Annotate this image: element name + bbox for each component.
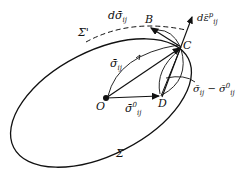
label-B: B	[145, 14, 153, 25]
label-sigma0: σ̄0ij	[125, 102, 141, 117]
label-D: D	[158, 98, 167, 109]
label-diff: σ̄ij − σ̄0ij	[193, 83, 235, 97]
vector-CB	[151, 28, 181, 47]
vector-OD	[106, 96, 159, 98]
label-sigma-prime: Σ'	[78, 27, 89, 38]
label-d-sigma: dσ̄ij	[108, 10, 127, 24]
label-sigma-surface: Σ	[116, 148, 124, 159]
label-O: O	[96, 101, 105, 112]
arc-CD-left	[159, 50, 179, 94]
yield-surface-sigma	[0, 12, 212, 174]
label-d-eps: dε̄pij	[197, 12, 218, 26]
label-C: C	[183, 40, 191, 51]
label-sigma-bar: σ̄ij	[110, 58, 122, 72]
